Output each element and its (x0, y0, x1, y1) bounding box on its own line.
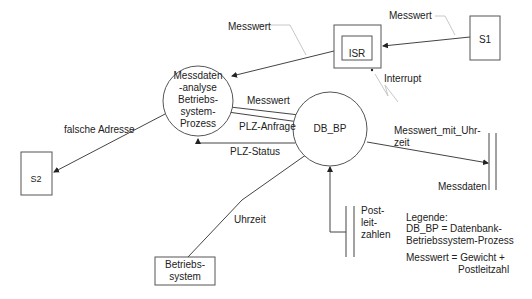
isr-box[interactable]: ISR (334, 25, 381, 68)
terminator-label: S2 (30, 174, 41, 184)
flow-isr-to-analysis (232, 51, 334, 76)
store-postleitzahlen[interactable] (346, 206, 354, 257)
terminator-label: S1 (479, 34, 492, 45)
process-label-line: Messdaten (174, 70, 223, 81)
flow-s1-to-isr (383, 37, 470, 46)
flow-plz-status (198, 139, 295, 143)
store-messdaten[interactable] (489, 133, 496, 190)
annotation-line-messwert-s1 (435, 16, 455, 35)
flow-db-to-messdaten (367, 142, 488, 163)
flow-label-s1-to-isr: Messwert (389, 10, 432, 21)
flow-label-messwert: Messwert (247, 95, 290, 106)
data-flow-diagram: Messdaten -analyse Betriebs- system- Pro… (0, 0, 532, 299)
store-label-messdaten: Messdaten (438, 181, 487, 192)
process-label-line: -analyse (179, 82, 217, 93)
terminator-s1[interactable]: S1 (470, 16, 500, 60)
store-label-postleitzahlen: leit- (361, 217, 377, 228)
process-label-line: Betriebs- (178, 94, 218, 105)
terminator-s2[interactable]: S2 (21, 152, 52, 195)
legend: Legende: DB_BP = Datenbank- Betriebssyst… (406, 212, 514, 275)
terminator-label: Betriebs- (165, 259, 205, 270)
terminator-betriebssystem[interactable]: Betriebs- system (155, 257, 215, 285)
legend-entry: Betriebssystem-Prozess (406, 235, 514, 246)
flow-label-isr-to-analysis: Messwert (228, 21, 271, 32)
flow-label-interrupt: Interrupt (384, 73, 421, 84)
flow-label-messwert-uhrzeit: Messwert_mit_Uhr- (394, 125, 481, 136)
store-label-postleitzahlen: zahlen (361, 229, 390, 240)
legend-entry: Postleitzahl (458, 264, 509, 275)
process-label: DB_BP (314, 123, 347, 134)
process-label-line: Prozess (180, 118, 216, 129)
legend-entry: DB_BP = Datenbank- (406, 223, 502, 234)
flow-falsche-adresse (54, 113, 167, 172)
terminator-label: system (169, 271, 201, 282)
flow-label-messwert-uhrzeit: zeit (394, 137, 410, 148)
flow-label-uhrzeit: Uhrzeit (234, 214, 266, 225)
legend-title: Legende: (406, 212, 448, 223)
flow-label-plz-status: PLZ-Status (230, 146, 280, 157)
store-label-postleitzahlen: Post- (361, 205, 384, 216)
flow-label-falsche-adresse: falsche Adresse (64, 124, 135, 135)
interrupt-dot (371, 69, 373, 71)
process-messdatenanalyse[interactable]: Messdaten -analyse Betriebs- system- Pro… (163, 66, 233, 136)
flow-uhrzeit (188, 152, 310, 257)
flow-postleitzahlen-to-db (330, 167, 346, 232)
isr-label: ISR (349, 48, 366, 59)
process-db-bp[interactable]: DB_BP (293, 92, 367, 166)
flow-label-plz-anfrage: PLZ-Anfrage (239, 121, 296, 132)
legend-entry: Messwert = Gewicht + (406, 252, 505, 263)
process-label-line: system- (181, 106, 216, 117)
